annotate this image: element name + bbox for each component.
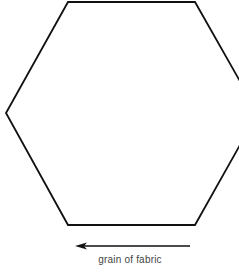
- hexagon-diagram: [0, 0, 239, 272]
- grain-of-fabric-label: grain of fabric: [0, 254, 239, 265]
- grain-arrow: [75, 243, 190, 250]
- hexagon-outline: [6, 2, 239, 225]
